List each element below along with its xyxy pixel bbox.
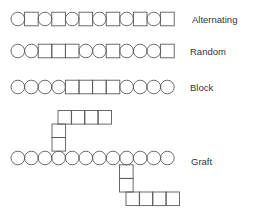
copolymer-diagram: Alternating Random Block Graft — [0, 0, 256, 216]
monomer-a-circle-icon — [147, 80, 161, 94]
row-block — [11, 80, 174, 94]
monomer-b-square-icon — [106, 44, 120, 58]
label-random: Random — [190, 46, 226, 57]
row-random — [11, 44, 174, 58]
monomer-a-circle-icon — [120, 44, 134, 58]
monomer-a-circle-icon — [38, 12, 52, 26]
monomer-a-circle-icon — [133, 151, 147, 165]
monomer-b-square-icon — [153, 192, 167, 206]
label-graft: Graft — [191, 156, 212, 167]
monomer-b-square-icon — [79, 12, 93, 26]
monomer-a-circle-icon — [65, 151, 79, 165]
monomer-b-square-icon — [38, 44, 52, 58]
monomer-a-circle-icon — [147, 151, 161, 165]
graft-copolymer — [11, 111, 180, 206]
monomer-b-square-icon — [120, 178, 134, 192]
graft-backbone — [11, 151, 174, 165]
monomer-b-square-icon — [52, 44, 66, 58]
monomer-a-circle-icon — [120, 12, 134, 26]
monomer-a-circle-icon — [120, 80, 134, 94]
monomer-a-circle-icon — [120, 151, 134, 165]
monomer-b-square-icon — [120, 165, 134, 179]
monomer-b-square-icon — [79, 80, 93, 94]
monomer-b-square-icon — [126, 192, 140, 206]
monomer-b-square-icon — [139, 192, 153, 206]
monomer-b-square-icon — [65, 44, 79, 58]
monomer-a-circle-icon — [79, 44, 93, 58]
graft-lower-branch — [120, 165, 180, 206]
monomer-a-circle-icon — [52, 80, 66, 94]
monomer-b-square-icon — [85, 111, 99, 125]
monomer-b-square-icon — [106, 12, 120, 26]
monomer-a-circle-icon — [11, 44, 25, 58]
monomer-b-square-icon — [25, 12, 39, 26]
monomer-b-square-icon — [52, 12, 66, 26]
monomer-a-circle-icon — [93, 151, 107, 165]
row-alternating — [11, 12, 174, 26]
graft-upper-branch — [52, 111, 112, 152]
monomer-a-circle-icon — [52, 151, 66, 165]
monomer-b-square-icon — [52, 124, 66, 138]
monomer-b-square-icon — [133, 12, 147, 26]
monomer-a-circle-icon — [25, 80, 39, 94]
monomer-a-circle-icon — [133, 44, 147, 58]
monomer-b-square-icon — [58, 111, 72, 125]
monomer-a-circle-icon — [11, 80, 25, 94]
monomer-a-circle-icon — [79, 151, 93, 165]
monomer-a-circle-icon — [65, 12, 79, 26]
monomer-a-circle-icon — [38, 151, 52, 165]
monomer-a-circle-icon — [11, 151, 25, 165]
monomer-b-square-icon — [71, 111, 85, 125]
monomer-a-circle-icon — [106, 151, 120, 165]
monomer-a-circle-icon — [147, 12, 161, 26]
monomer-b-square-icon — [161, 44, 175, 58]
monomer-b-square-icon — [161, 12, 175, 26]
monomer-a-circle-icon — [11, 12, 25, 26]
monomer-a-circle-icon — [38, 80, 52, 94]
monomer-b-square-icon — [52, 138, 66, 152]
monomer-a-circle-icon — [161, 80, 175, 94]
monomer-b-square-icon — [166, 192, 180, 206]
monomer-b-square-icon — [106, 80, 120, 94]
monomer-b-square-icon — [93, 80, 107, 94]
monomer-a-circle-icon — [161, 151, 175, 165]
monomer-a-circle-icon — [93, 44, 107, 58]
monomer-a-circle-icon — [25, 151, 39, 165]
monomer-a-circle-icon — [147, 44, 161, 58]
monomer-a-circle-icon — [93, 12, 107, 26]
label-alternating: Alternating — [192, 14, 237, 25]
monomer-b-square-icon — [65, 80, 79, 94]
monomer-a-circle-icon — [25, 44, 39, 58]
label-block: Block — [190, 82, 213, 93]
monomer-a-circle-icon — [133, 80, 147, 94]
monomer-b-square-icon — [98, 111, 112, 125]
